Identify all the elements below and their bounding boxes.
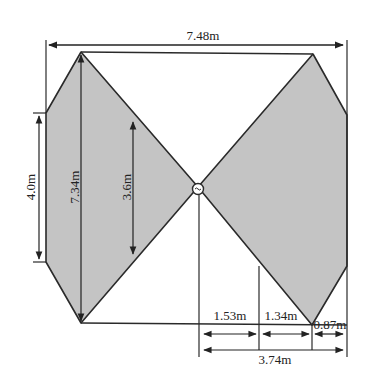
seg-3-label: 0.87m: [314, 317, 347, 332]
bowtie-dimension-diagram: 7.48m 7.34m 4.0m 3.6m 1.53m 1.34m 0.87m …: [0, 0, 366, 383]
half-width-label: 3.74m: [259, 352, 292, 367]
inner-height-label: 3.6m: [119, 174, 134, 200]
bottom-edge: [81, 323, 347, 325]
seg-1-label: 1.53m: [214, 308, 247, 323]
top-edge: [81, 52, 313, 54]
side-height-label: 4.0m: [23, 174, 38, 200]
total-width-label: 7.48m: [187, 28, 220, 43]
total-height-label: 7.34m: [67, 171, 82, 204]
seg-2-label: 1.34m: [265, 308, 298, 323]
right-shaded-panel: [198, 54, 347, 325]
pivot-circle-icon: [193, 184, 204, 195]
